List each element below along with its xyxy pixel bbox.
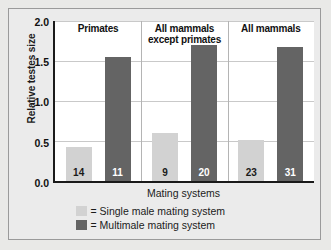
y-axis-ticks: 2.0 1.5 1.0 0.5 0.0 bbox=[21, 21, 49, 183]
bar-multimale[interactable]: 20 bbox=[191, 45, 217, 181]
panel-title-line: All mammals bbox=[141, 23, 227, 34]
y-tick-label: 1.0 bbox=[23, 97, 49, 108]
bar-count-label: 14 bbox=[73, 168, 84, 181]
chart-figure: Relative testes size 2.0 1.5 1.0 0.5 0.0… bbox=[8, 8, 321, 240]
bar-group: 23 31 bbox=[228, 19, 314, 181]
x-axis-title: Mating systems bbox=[53, 187, 314, 199]
bar-count-label: 20 bbox=[198, 168, 209, 181]
panel-all-mammals-except-primates: All mammals except primates 9 20 bbox=[141, 21, 227, 181]
plot-area: Primates 14 11 All mammals except primat… bbox=[53, 21, 314, 183]
bar-multimale[interactable]: 11 bbox=[105, 57, 131, 181]
panel-title: Primates bbox=[55, 21, 141, 34]
bar-count-label: 31 bbox=[285, 168, 296, 181]
bar-count-label: 9 bbox=[162, 168, 168, 181]
panel-group: Primates 14 11 All mammals except primat… bbox=[55, 21, 314, 181]
bar-single-male[interactable]: 23 bbox=[238, 140, 264, 181]
bar-single-male[interactable]: 14 bbox=[66, 147, 92, 181]
panel-title: All mammals except primates bbox=[141, 21, 227, 45]
legend-item-single-male: = Single male mating system bbox=[76, 205, 254, 217]
bar-group: 14 11 bbox=[55, 19, 141, 181]
panel-title: All mammals bbox=[228, 21, 314, 34]
bar-single-male[interactable]: 9 bbox=[152, 133, 178, 181]
chart-legend: = Single male mating system = Multimale … bbox=[9, 205, 320, 231]
y-tick-label: 2.0 bbox=[23, 17, 49, 28]
y-tick-label: 0.0 bbox=[23, 178, 49, 189]
legend-label: = Single male mating system bbox=[91, 205, 226, 217]
panel-title-line: All mammals bbox=[228, 23, 314, 34]
panel-title-line: Primates bbox=[55, 23, 141, 34]
legend-item-multimale: = Multimale mating system bbox=[76, 219, 254, 231]
legend-swatch-icon bbox=[76, 206, 87, 216]
legend-swatch-icon bbox=[76, 220, 87, 230]
bar-count-label: 23 bbox=[246, 168, 257, 181]
panel-title-line: except primates bbox=[141, 34, 227, 45]
legend-label: = Multimale mating system bbox=[91, 219, 216, 231]
panel-primates: Primates 14 11 bbox=[55, 21, 141, 181]
bar-count-label: 11 bbox=[112, 168, 123, 181]
y-tick-label: 1.5 bbox=[23, 57, 49, 68]
panel-all-mammals: All mammals 23 31 bbox=[228, 21, 314, 181]
bar-multimale[interactable]: 31 bbox=[277, 47, 303, 181]
y-tick-label: 0.5 bbox=[23, 138, 49, 149]
